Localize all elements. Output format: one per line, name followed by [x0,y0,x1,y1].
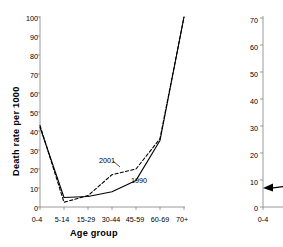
series-line-1990 [40,17,184,198]
left-y-tick-marks [37,17,40,207]
left-chart-plot [0,0,200,247]
figure-container: Death rate per 1000 Age group 0 10 20 30… [0,0,283,247]
leader-line-2001 [113,161,120,167]
right-chart-plot [200,0,283,247]
chart-aids-related-deaths: Per cent of deaths which are AIDS relate… [200,0,283,247]
right-y-tick-marks [260,18,263,207]
chart-death-rate-by-age: Death rate per 1000 Age group 0 10 20 30… [0,0,200,247]
series-line-2001 [40,17,184,202]
left-x-tick-marks [40,207,184,210]
right-series-arrow-marker [263,184,273,192]
